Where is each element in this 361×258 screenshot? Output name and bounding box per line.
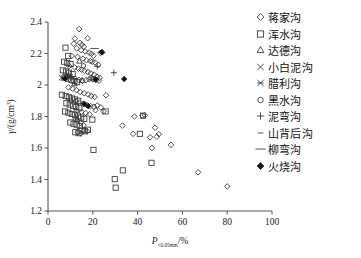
data-point-square-open: [257, 31, 263, 37]
legend-item[interactable]: 达德沟: [253, 42, 358, 59]
data-point-diamond-open: [72, 36, 78, 42]
data-point-diamond-filled: [121, 76, 127, 82]
legend-item-label: 浑水沟: [268, 26, 302, 42]
legend-item[interactable]: 柳弯沟: [253, 141, 358, 158]
data-point-cross-x: [257, 64, 263, 70]
data-point-diamond-open: [91, 53, 97, 59]
x-tick-label: 40: [133, 217, 143, 227]
data-point-diamond-open: [85, 35, 91, 41]
data-point-circle-open: [81, 64, 85, 68]
y-tick-label: 1.8: [30, 112, 42, 122]
data-point-plus: [257, 113, 264, 120]
data-point-triangle-open: [257, 47, 264, 53]
data-point-circle-open: [258, 97, 263, 102]
legend-item-label: 腊利沟: [268, 75, 302, 91]
data-point-diamond-open: [195, 169, 201, 175]
data-point-diamond-open: [132, 114, 138, 120]
legend-item-label: 柳弯沟: [268, 141, 302, 157]
scatter-plot-figure: 0204060801001.21.41.61.822.22.4 P<0.05mm…: [0, 0, 361, 258]
x-tick-label: 80: [222, 217, 232, 227]
data-points-group: [59, 26, 230, 190]
data-point-diamond-open: [66, 63, 72, 69]
dash-long-icon: [253, 142, 268, 156]
data-point-square-open: [62, 59, 67, 64]
plus-icon: [253, 109, 268, 123]
data-point-square-open: [62, 109, 67, 114]
legend-item[interactable]: 蒋家沟: [253, 9, 358, 26]
data-point-square-open: [137, 131, 142, 136]
y-tick-label: 2.4: [30, 17, 42, 27]
y-tick-label: 1.4: [30, 175, 42, 185]
dash-short-icon: [253, 126, 268, 140]
legend-item-label: 小白泥沟: [268, 59, 313, 75]
legend-item-label: 蒋家沟: [268, 9, 302, 25]
data-point-diamond-open: [79, 42, 85, 48]
data-point-square-open: [69, 111, 74, 116]
legend: 蒋家沟浑水沟达德沟小白泥沟腊利沟黑水沟泥弯沟山背后沟柳弯沟火烧沟: [253, 9, 358, 174]
y-tick-label: 1.2: [30, 206, 42, 216]
data-point-square-open: [66, 110, 71, 115]
data-point-square-open: [103, 109, 108, 114]
diamond-filled-icon: [253, 159, 268, 173]
data-point-square-open: [64, 101, 69, 106]
data-point-diamond-open: [168, 142, 174, 148]
data-point-triangle-open: [77, 58, 83, 63]
x-tick-label: 60: [178, 217, 188, 227]
data-point-diamond-filled: [257, 162, 264, 169]
legend-item[interactable]: 小白泥沟: [253, 59, 358, 76]
series-square-open: [59, 45, 154, 190]
data-point-diamond-open: [69, 53, 75, 59]
series-plus: [94, 63, 117, 75]
data-point-square-open: [149, 160, 154, 165]
legend-item[interactable]: 泥弯沟: [253, 108, 358, 125]
legend-item-label: 火烧沟: [268, 158, 302, 174]
legend-item[interactable]: 腊利沟: [253, 75, 358, 92]
data-point-diamond-open: [152, 125, 158, 131]
circle-open-icon: [253, 93, 268, 107]
data-point-diamond-open: [257, 14, 264, 21]
data-point-square-open: [66, 53, 71, 58]
data-point-diamond-open: [103, 92, 109, 98]
data-point-square-open: [91, 147, 96, 152]
legend-item-label: 黑水沟: [268, 92, 302, 108]
data-point-square-open: [112, 177, 117, 182]
cross-x-icon: [253, 60, 268, 74]
diamond-open-icon: [253, 10, 268, 24]
data-point-square-open: [82, 116, 87, 121]
x-tick-label: 0: [46, 217, 51, 227]
y-tick-label: 2.2: [30, 49, 42, 59]
data-point-square-open: [120, 168, 125, 173]
x-tick-label: 100: [265, 217, 280, 227]
legend-item[interactable]: 浑水沟: [253, 26, 358, 43]
data-point-diamond-open: [224, 184, 230, 190]
data-point-plus: [111, 70, 117, 76]
legend-item-label: 达德沟: [268, 42, 302, 58]
y-tick-label: 1.6: [30, 143, 42, 153]
data-point-diamond-open: [76, 26, 82, 32]
data-point-diamond-open: [120, 123, 126, 129]
x-tick-label: 20: [88, 217, 98, 227]
data-point-plus: [94, 63, 100, 69]
legend-item[interactable]: 火烧沟: [253, 158, 358, 175]
x-axis-title: P<0.05mm/%: [151, 236, 189, 248]
cross-x-bold-icon: [253, 76, 268, 90]
data-point-diamond-open: [71, 41, 77, 47]
legend-item-label: 泥弯沟: [268, 108, 302, 124]
data-point-square-open: [59, 92, 64, 97]
data-point-square-open: [68, 120, 73, 125]
data-point-diamond-open: [149, 145, 155, 151]
y-tick-label: 2: [37, 80, 42, 90]
triangle-open-icon: [253, 43, 268, 57]
legend-item[interactable]: 山背后沟: [253, 125, 358, 142]
data-point-cross-x-bold: [257, 80, 263, 86]
data-point-square-open: [71, 103, 76, 108]
data-point-diamond-open: [77, 40, 83, 46]
data-point-square-open: [63, 93, 68, 98]
legend-item[interactable]: 黑水沟: [253, 92, 358, 109]
data-point-square-open: [90, 117, 95, 122]
y-axis-title: γ/(g/cm3): [6, 99, 17, 133]
square-open-icon: [253, 27, 268, 41]
data-point-diamond-open: [147, 134, 153, 140]
data-point-square-open: [113, 185, 118, 190]
data-point-square-open: [63, 45, 68, 50]
